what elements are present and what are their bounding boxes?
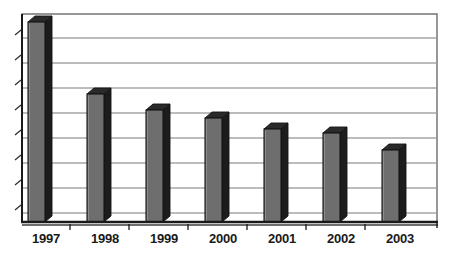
bar-face-2000 (205, 118, 222, 222)
bar-2000 (205, 112, 229, 222)
bar-face-2002 (323, 133, 340, 222)
bar-side-2002 (340, 127, 347, 222)
plot-area-border (22, 14, 437, 222)
x-axis-label-2002: 2002 (327, 231, 355, 246)
bar-side-1999 (163, 104, 170, 222)
bar-side-2001 (281, 123, 288, 222)
bar-2003 (382, 144, 406, 222)
x-axis-label-2003: 2003 (386, 231, 414, 246)
plot-frame (22, 14, 437, 222)
bar-1997 (28, 16, 52, 222)
x-axis-label-2001: 2001 (268, 231, 296, 246)
bar-face-1999 (146, 110, 163, 222)
bar-side-1998 (104, 88, 111, 222)
bar-chart: 1997199819992000200120022003 (0, 0, 454, 262)
chart-canvas: 1997199819992000200120022003 (0, 0, 454, 262)
bar-2002 (323, 127, 347, 222)
x-axis-label-2000: 2000 (209, 231, 237, 246)
x-axis-label-1999: 1999 (150, 231, 178, 246)
bar-1998 (87, 88, 111, 222)
bar-2001 (264, 123, 288, 222)
bar-face-1998 (87, 94, 104, 222)
bar-face-2001 (264, 129, 281, 222)
bar-face-2003 (382, 150, 399, 222)
bar-side-2000 (222, 112, 229, 222)
bar-side-2003 (399, 144, 406, 222)
bar-side-1997 (45, 16, 52, 222)
x-axis-label-1998: 1998 (91, 231, 119, 246)
bar-1999 (146, 104, 170, 222)
x-axis-label-1997: 1997 (32, 231, 60, 246)
bar-face-1997 (28, 22, 45, 222)
